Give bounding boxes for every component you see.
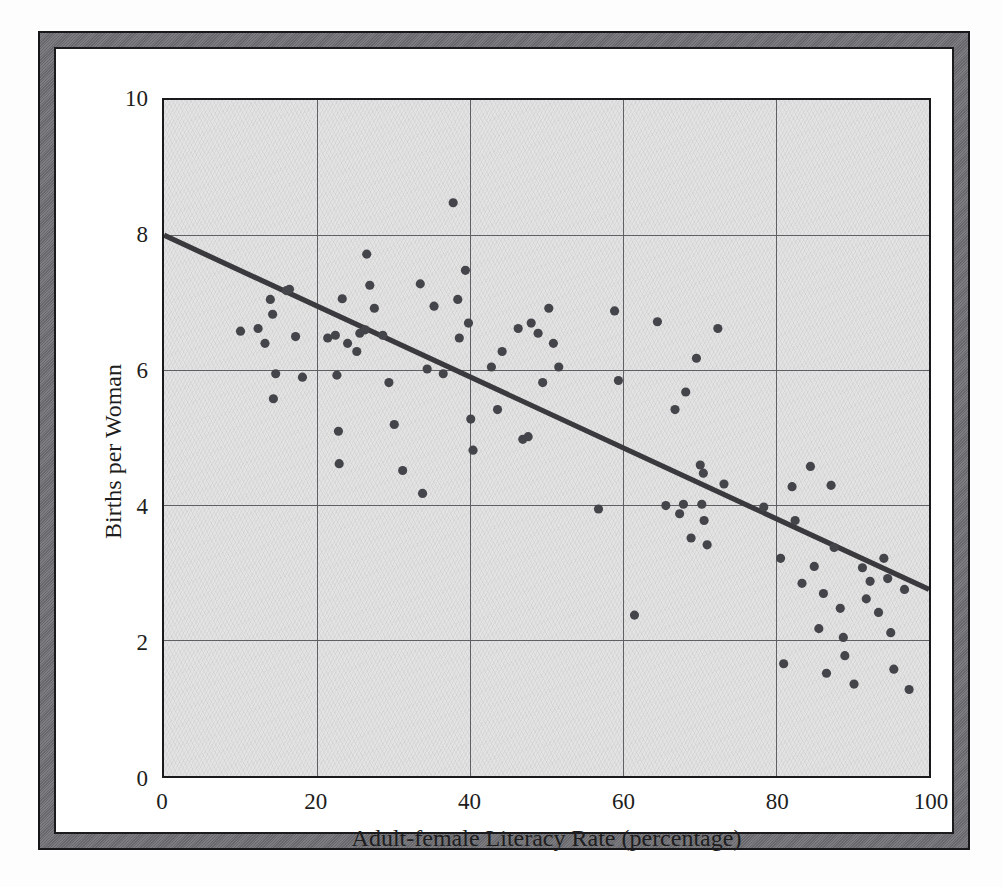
data-point bbox=[661, 501, 670, 510]
data-point bbox=[549, 339, 558, 348]
data-point bbox=[703, 540, 712, 549]
data-point bbox=[687, 533, 696, 542]
y-axis-title: Births per Woman bbox=[100, 322, 127, 582]
scatter-plot-figure: 0246810 020406080100 Adult-female Litera… bbox=[56, 49, 958, 838]
data-point bbox=[699, 469, 708, 478]
data-point bbox=[905, 685, 914, 694]
data-point bbox=[610, 306, 619, 315]
data-point bbox=[700, 516, 709, 525]
data-point bbox=[797, 579, 806, 588]
data-point bbox=[874, 608, 883, 617]
data-point bbox=[398, 466, 407, 475]
data-point bbox=[849, 679, 858, 688]
data-point bbox=[830, 543, 839, 552]
data-point bbox=[498, 347, 507, 356]
data-point bbox=[334, 427, 343, 436]
data-point bbox=[840, 651, 849, 660]
data-point bbox=[534, 329, 543, 338]
x-tick-label: 0 bbox=[156, 790, 168, 813]
data-point bbox=[378, 331, 387, 340]
data-point bbox=[291, 332, 300, 341]
data-point bbox=[697, 500, 706, 509]
data-point bbox=[879, 554, 888, 563]
data-point bbox=[260, 339, 269, 348]
data-point bbox=[271, 369, 280, 378]
data-point bbox=[719, 479, 728, 488]
data-point bbox=[670, 405, 679, 414]
x-tick-label: 60 bbox=[612, 790, 635, 813]
x-tick-label: 40 bbox=[458, 790, 481, 813]
data-point bbox=[900, 585, 909, 594]
data-point bbox=[759, 502, 768, 511]
data-point bbox=[365, 281, 374, 290]
figure-frame-inner: 0246810 020406080100 Adult-female Litera… bbox=[54, 47, 954, 834]
data-point bbox=[331, 331, 340, 340]
data-point bbox=[464, 319, 473, 328]
y-tick-label: 2 bbox=[100, 631, 148, 654]
data-point bbox=[335, 459, 344, 468]
data-point bbox=[839, 633, 848, 642]
data-point bbox=[776, 554, 785, 563]
data-point bbox=[889, 665, 898, 674]
data-point bbox=[439, 369, 448, 378]
data-point bbox=[455, 333, 464, 342]
y-tick-label: 0 bbox=[100, 767, 148, 790]
y-tick-label: 8 bbox=[100, 223, 148, 246]
data-point bbox=[514, 324, 523, 333]
data-point bbox=[361, 325, 370, 334]
data-point bbox=[819, 589, 828, 598]
data-point bbox=[487, 362, 496, 371]
data-point bbox=[862, 594, 871, 603]
plot-area bbox=[162, 98, 931, 778]
data-point bbox=[554, 362, 563, 371]
gridlines bbox=[164, 100, 929, 776]
figure-frame-outer: 0246810 020406080100 Adult-female Litera… bbox=[38, 31, 970, 850]
data-point bbox=[285, 285, 294, 294]
data-point bbox=[429, 302, 438, 311]
page-canvas: 0246810 020406080100 Adult-female Litera… bbox=[0, 0, 1002, 887]
data-point bbox=[791, 516, 800, 525]
data-point bbox=[679, 500, 688, 509]
data-point bbox=[866, 577, 875, 586]
data-point bbox=[362, 250, 371, 259]
data-point bbox=[883, 574, 892, 583]
data-point bbox=[268, 310, 277, 319]
data-point bbox=[858, 563, 867, 572]
data-point bbox=[822, 669, 831, 678]
data-point bbox=[614, 376, 623, 385]
x-tick-label: 80 bbox=[766, 790, 789, 813]
plot-svg bbox=[164, 100, 929, 776]
data-point bbox=[692, 354, 701, 363]
data-point bbox=[449, 198, 458, 207]
data-point bbox=[418, 489, 427, 498]
data-point bbox=[384, 378, 393, 387]
data-point bbox=[827, 481, 836, 490]
data-point bbox=[806, 462, 815, 471]
data-point bbox=[254, 324, 263, 333]
data-point bbox=[269, 394, 278, 403]
data-point bbox=[461, 266, 470, 275]
data-point bbox=[713, 324, 722, 333]
data-point bbox=[653, 317, 662, 326]
data-point bbox=[787, 482, 796, 491]
x-tick-label: 20 bbox=[304, 790, 327, 813]
data-point bbox=[466, 414, 475, 423]
x-tick-label: 100 bbox=[914, 790, 949, 813]
trend-line-path bbox=[164, 235, 929, 589]
data-point bbox=[675, 509, 684, 518]
data-point bbox=[836, 604, 845, 613]
data-points bbox=[236, 198, 914, 694]
data-point bbox=[332, 371, 341, 380]
data-point bbox=[696, 460, 705, 469]
data-point bbox=[544, 304, 553, 313]
data-point bbox=[236, 327, 245, 336]
y-tick-label: 10 bbox=[100, 87, 148, 110]
trend-line bbox=[164, 235, 929, 589]
data-point bbox=[352, 347, 361, 356]
data-point bbox=[343, 339, 352, 348]
data-point bbox=[810, 562, 819, 571]
data-point bbox=[630, 611, 639, 620]
data-point bbox=[681, 387, 690, 396]
data-point bbox=[298, 373, 307, 382]
data-point bbox=[423, 364, 432, 373]
